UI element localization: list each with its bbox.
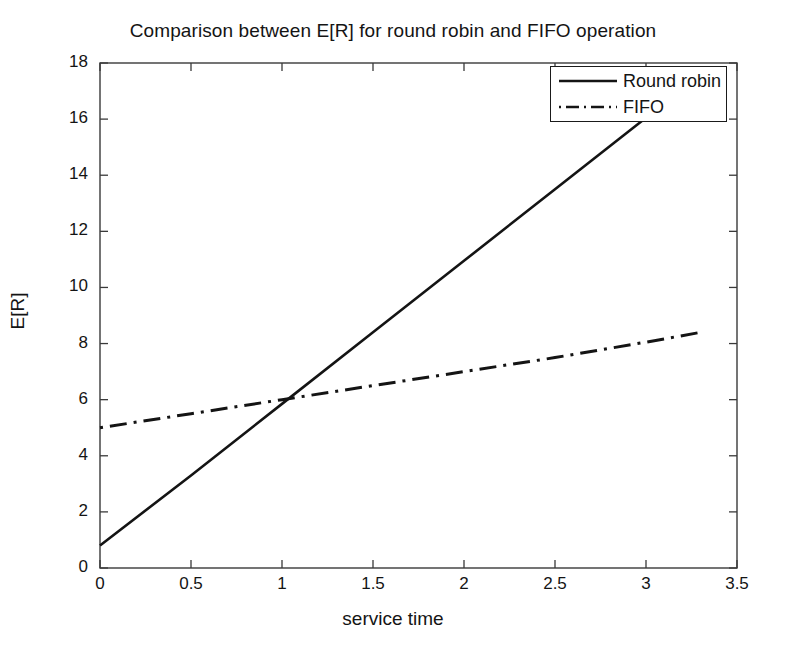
x-tick-label: 2 (434, 574, 494, 594)
x-tick-label: 0 (70, 574, 130, 594)
legend-sample-solid-icon (557, 72, 619, 90)
x-axis-label: service time (0, 608, 786, 630)
x-tick-label: 1 (252, 574, 312, 594)
x-tick-label: 0.5 (161, 574, 221, 594)
y-tick-label: 10 (38, 276, 88, 296)
y-tick-label: 4 (38, 445, 88, 465)
y-tick-label: 12 (38, 220, 88, 240)
series-line-fifo (100, 332, 701, 427)
y-tick-label: 18 (38, 52, 88, 72)
x-tick-label: 1.5 (343, 574, 403, 594)
legend-label-round-robin: Round robin (623, 71, 721, 92)
tick-marks (100, 63, 737, 568)
data-series (100, 74, 701, 545)
x-tick-label: 3 (616, 574, 676, 594)
y-tick-label: 8 (38, 333, 88, 353)
legend-item-round-robin: Round robin (551, 67, 726, 95)
legend-sample-dashdot-icon (557, 98, 619, 116)
y-tick-label: 6 (38, 389, 88, 409)
y-axis-label: E[R] (7, 261, 29, 361)
legend-label-fifo: FIFO (623, 97, 664, 118)
x-tick-label: 2.5 (525, 574, 585, 594)
axes-frame (100, 63, 737, 568)
legend-item-fifo: FIFO (551, 93, 726, 121)
series-line-round-robin (100, 74, 701, 545)
chart-figure: Comparison between E[R] for round robin … (0, 0, 786, 645)
chart-legend: Round robin FIFO (550, 66, 727, 122)
plot-frame (100, 63, 737, 568)
x-tick-label: 3.5 (707, 574, 767, 594)
y-tick-label: 16 (38, 108, 88, 128)
y-tick-label: 2 (38, 501, 88, 521)
chart-title: Comparison between E[R] for round robin … (0, 20, 786, 42)
y-tick-label: 0 (38, 557, 88, 577)
y-tick-label: 14 (38, 164, 88, 184)
